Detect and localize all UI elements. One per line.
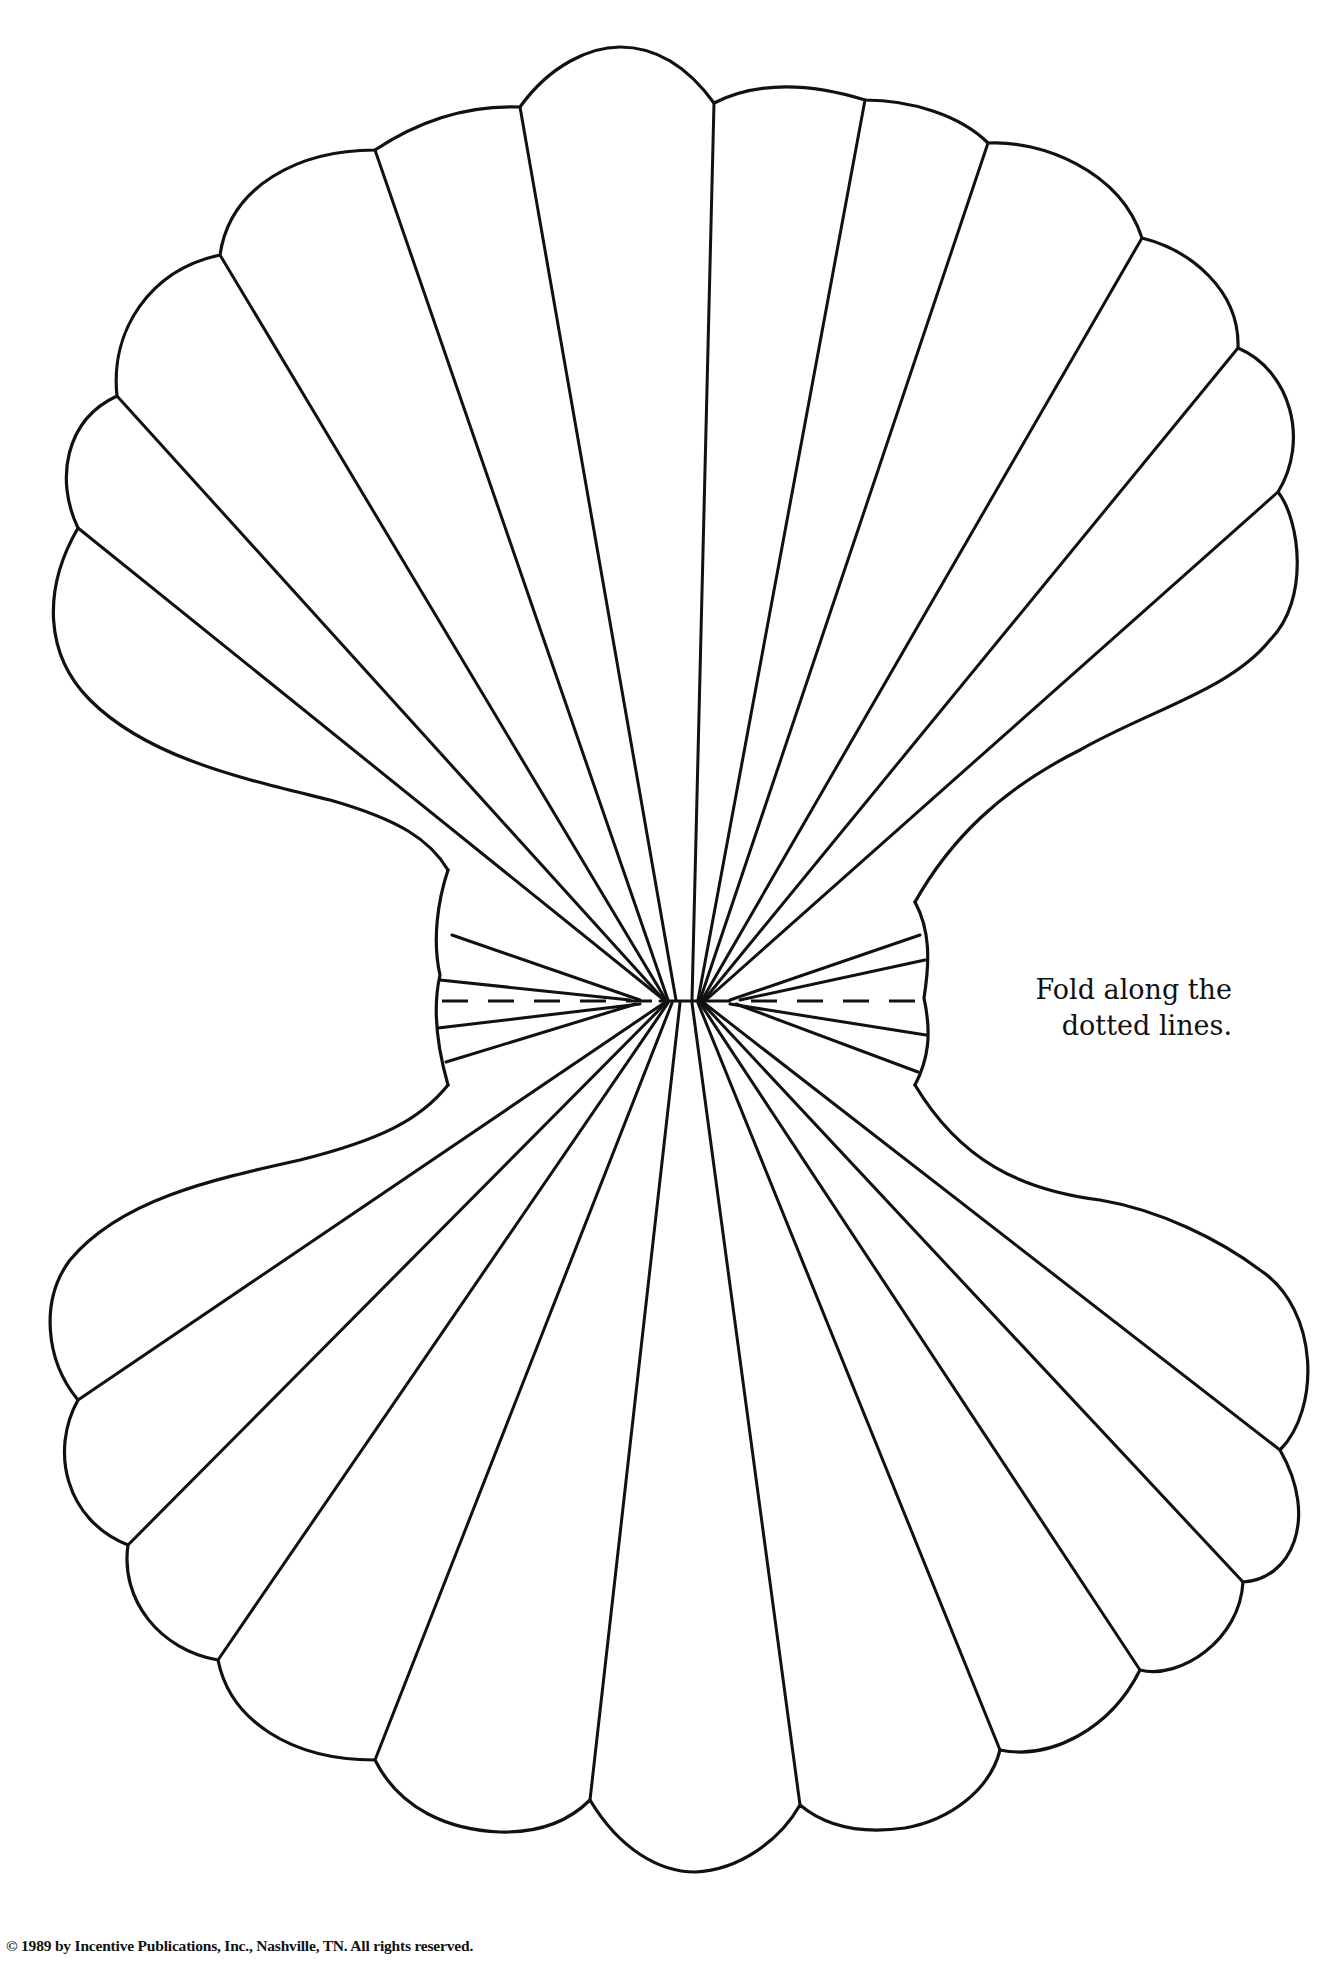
instruction-line-1: Fold along the: [1002, 972, 1232, 1008]
bottom-ribs: [78, 1003, 1280, 1805]
shell-bottom-outline: [50, 1085, 1308, 1872]
shell-left-waist: [436, 870, 448, 1085]
top-ribs: [78, 100, 1278, 1000]
fold-instruction: Fold along the dotted lines.: [1002, 972, 1232, 1044]
shell-right-waist: [915, 902, 928, 1085]
copyright-notice: © 1989 by Incentive Publications, Inc., …: [6, 1937, 473, 1955]
instruction-line-2: dotted lines.: [1002, 1008, 1232, 1044]
template-page: Fold along the dotted lines. © 1989 by I…: [0, 0, 1336, 1974]
shell-top-outline: [53, 47, 1297, 902]
